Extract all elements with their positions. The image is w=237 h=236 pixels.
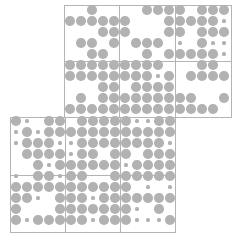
- large-dot: [153, 104, 163, 114]
- large-dot: [164, 5, 174, 15]
- large-dot: [110, 215, 120, 225]
- large-dot: [175, 49, 185, 59]
- large-dot: [55, 193, 65, 203]
- large-dot: [109, 104, 119, 114]
- large-dot: [77, 193, 87, 203]
- large-dot: [164, 93, 174, 103]
- large-dot: [219, 5, 229, 15]
- large-dot: [87, 16, 97, 26]
- large-dot: [143, 149, 153, 159]
- large-dot: [208, 5, 218, 15]
- large-dot: [120, 93, 130, 103]
- large-dot: [143, 138, 153, 148]
- small-dot: [135, 207, 138, 210]
- large-dot: [33, 160, 43, 170]
- large-dot: [44, 127, 54, 137]
- large-dot: [88, 149, 98, 159]
- large-dot: [208, 71, 218, 81]
- large-dot: [197, 60, 207, 70]
- large-dot: [66, 127, 76, 137]
- small-dot: [211, 41, 214, 44]
- large-dot: [131, 82, 141, 92]
- large-dot: [197, 71, 207, 81]
- large-dot: [131, 93, 141, 103]
- small-dot: [135, 119, 138, 122]
- large-dot: [110, 116, 120, 126]
- small-dot: [146, 185, 149, 188]
- large-dot: [99, 160, 109, 170]
- large-dot: [219, 71, 229, 81]
- small-dot: [157, 218, 160, 221]
- large-dot: [22, 149, 32, 159]
- large-dot: [99, 138, 109, 148]
- large-dot: [77, 160, 87, 170]
- small-dot: [178, 41, 181, 44]
- large-dot: [164, 27, 174, 37]
- large-dot: [110, 204, 120, 214]
- large-dot: [120, 16, 130, 26]
- large-dot: [197, 5, 207, 15]
- large-dot: [44, 149, 54, 159]
- small-dot: [14, 141, 17, 144]
- large-dot: [153, 60, 163, 70]
- large-dot: [87, 104, 97, 114]
- large-dot: [208, 16, 218, 26]
- large-dot: [153, 93, 163, 103]
- large-dot: [165, 193, 175, 203]
- large-dot: [98, 60, 108, 70]
- large-dot: [77, 171, 87, 181]
- large-dot: [153, 82, 163, 92]
- large-dot: [208, 60, 218, 70]
- large-dot: [219, 27, 229, 37]
- large-dot: [154, 149, 164, 159]
- large-dot: [120, 27, 130, 37]
- large-dot: [110, 138, 120, 148]
- large-dot: [219, 93, 229, 103]
- large-dot: [98, 16, 108, 26]
- large-dot: [55, 149, 65, 159]
- large-dot: [121, 215, 131, 225]
- small-dot: [47, 163, 50, 166]
- large-dot: [44, 215, 54, 225]
- large-dot: [77, 215, 87, 225]
- large-dot: [120, 71, 130, 81]
- large-dot: [33, 149, 43, 159]
- large-dot: [87, 38, 97, 48]
- small-dot: [146, 218, 149, 221]
- large-dot: [121, 116, 131, 126]
- large-dot: [110, 171, 120, 181]
- small-dot: [168, 185, 171, 188]
- large-dot: [153, 38, 163, 48]
- small-dot: [69, 141, 72, 144]
- small-dot: [25, 119, 28, 122]
- large-dot: [88, 127, 98, 137]
- large-dot: [131, 38, 141, 48]
- large-dot: [154, 160, 164, 170]
- large-dot: [197, 38, 207, 48]
- large-dot: [77, 116, 87, 126]
- large-dot: [154, 127, 164, 137]
- large-dot: [143, 193, 153, 203]
- large-dot: [110, 149, 120, 159]
- large-dot: [154, 171, 164, 181]
- large-dot: [208, 104, 218, 114]
- large-dot: [132, 138, 142, 148]
- small-dot: [25, 218, 28, 221]
- small-dot: [36, 196, 39, 199]
- large-dot: [186, 71, 196, 81]
- large-dot: [65, 16, 75, 26]
- large-dot: [11, 193, 21, 203]
- large-dot: [208, 27, 218, 37]
- large-dot: [154, 204, 164, 214]
- large-dot: [109, 71, 119, 81]
- large-dot: [154, 138, 164, 148]
- small-dot: [168, 141, 171, 144]
- large-dot: [44, 171, 54, 181]
- small-dot: [222, 19, 225, 22]
- large-dot: [110, 182, 120, 192]
- large-dot: [11, 116, 21, 126]
- large-dot: [197, 49, 207, 59]
- large-dot: [142, 82, 152, 92]
- large-dot: [164, 16, 174, 26]
- small-dot: [14, 174, 17, 177]
